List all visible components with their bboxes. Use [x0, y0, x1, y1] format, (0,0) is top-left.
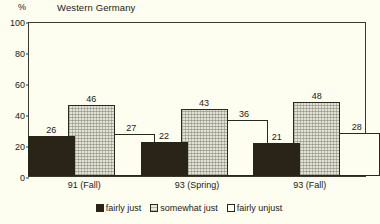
- x-axis-category-label: 93 (Spring): [175, 180, 220, 190]
- bar-value-label: 22: [159, 131, 169, 141]
- bar-value-label: 21: [272, 132, 282, 142]
- y-axis-tick-label: 80: [0, 49, 29, 59]
- bar-fairly-just: [253, 143, 300, 176]
- bars-layer: 264627224336214828: [29, 23, 365, 176]
- legend-label: fairly unjust: [237, 203, 283, 213]
- bar-somewhat-just: [181, 109, 228, 176]
- y-axis-tick-label: 0: [0, 173, 29, 183]
- legend-label: fairly just: [106, 203, 142, 213]
- bar-value-label: 48: [312, 91, 322, 101]
- legend-swatch-icon: [227, 204, 235, 212]
- bar-fairly-unjust: [333, 133, 380, 176]
- y-axis-tick-label: 100: [0, 18, 29, 28]
- bar-value-label: 26: [46, 125, 56, 135]
- y-axis-tick-label: 60: [0, 80, 29, 90]
- y-axis-tick-label: 40: [0, 111, 29, 121]
- legend-swatch-icon: [150, 204, 158, 212]
- bar-value-label: 46: [86, 94, 96, 104]
- bar-value-label: 28: [352, 122, 362, 132]
- bar-fairly-just: [141, 142, 188, 176]
- bar-fairly-just: [28, 136, 75, 176]
- y-axis-tick-label: 20: [0, 142, 29, 152]
- bar-value-label: 36: [239, 109, 249, 119]
- x-axis-category-label: 91 (Fall): [68, 180, 101, 190]
- y-axis-tick-mark: [26, 178, 29, 179]
- chart-title: Western Germany: [57, 2, 135, 13]
- legend-item-fairly-unjust[interactable]: fairly unjust: [227, 203, 283, 213]
- bar-value-label: 43: [199, 98, 209, 108]
- bar-somewhat-just: [68, 105, 115, 176]
- legend-label: somewhat just: [160, 203, 218, 213]
- legend-swatch-icon: [96, 204, 104, 212]
- bar-somewhat-just: [293, 102, 340, 176]
- plot-area: 020406080100 264627224336214828: [28, 22, 366, 177]
- bar-value-label: 27: [126, 123, 136, 133]
- legend-item-fairly-just[interactable]: fairly just: [96, 203, 142, 213]
- y-axis-unit-label: %: [18, 2, 26, 12]
- legend-item-somewhat-just[interactable]: somewhat just: [150, 203, 218, 213]
- chart-legend: fairly justsomewhat justfairly unjust: [0, 203, 378, 213]
- x-axis-category-label: 93 (Fall): [293, 180, 326, 190]
